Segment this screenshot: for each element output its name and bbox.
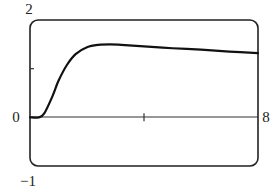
y-min-label: −1	[20, 173, 36, 189]
axis-ticks	[30, 69, 144, 122]
plot-frame	[30, 20, 258, 166]
x-min-label: 0	[12, 109, 20, 125]
x-max-label: 8	[262, 109, 270, 125]
data-curve	[30, 44, 258, 117]
y-max-label: 2	[25, 1, 33, 17]
chart-canvas: 2 −1 0 8	[0, 0, 274, 189]
